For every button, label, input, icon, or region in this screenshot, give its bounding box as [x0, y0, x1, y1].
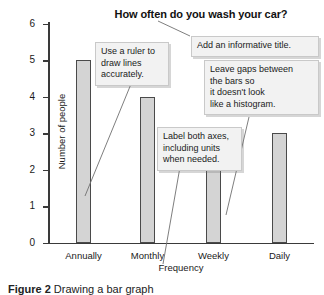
y-tick-0: 0: [43, 243, 48, 244]
y-tick-label-1: 1: [29, 201, 35, 211]
y-tick-label-2: 2: [29, 165, 35, 175]
y-tick-5: 5: [43, 60, 48, 61]
y-tick-3: 3: [43, 133, 48, 134]
y-tick-label-6: 6: [29, 19, 35, 29]
y-tick-2: 2: [43, 170, 48, 171]
category-label-annually: Annually: [65, 250, 101, 261]
figure-caption-text: Drawing a bar graph: [54, 283, 154, 295]
bar-monthly: [140, 97, 155, 243]
y-tick-6: 6: [43, 24, 48, 25]
y-tick-1: 1: [43, 206, 48, 207]
annotation-ruler-note: Use a ruler to draw lines accurately.: [95, 42, 169, 86]
bar-daily: [272, 133, 287, 243]
annotation-gaps-note: Leave gaps between the bars so it doesn'…: [204, 60, 319, 115]
bar-annually: [76, 60, 91, 243]
y-tick-label-0: 0: [29, 238, 35, 248]
category-label-monthly: Monthly: [131, 250, 164, 261]
figure-caption-number: Figure 2: [8, 283, 51, 295]
annotation-axes-note: Label both axes, including units when ne…: [157, 127, 242, 171]
category-label-daily: Daily: [269, 250, 290, 261]
annotation-title-note: Add an informative title.: [191, 36, 319, 57]
y-tick-4: 4: [43, 97, 48, 98]
y-axis-line: [48, 22, 50, 244]
category-label-weekly: Weekly: [198, 250, 229, 261]
x-axis-line: [48, 243, 314, 245]
figure-caption: Figure 2 Drawing a bar graph: [8, 283, 154, 295]
y-tick-label-3: 3: [29, 128, 35, 138]
figure-bar-graph-annotated: How often do you wash your car? 0 1 2 3 …: [0, 0, 324, 295]
x-axis-title: Frequency: [48, 262, 314, 273]
y-tick-label-5: 5: [29, 55, 35, 65]
y-tick-label-4: 4: [29, 92, 35, 102]
y-axis-title: Number of people: [56, 77, 67, 187]
bar-weekly: [206, 170, 221, 243]
chart-title: How often do you wash your car?: [84, 8, 318, 20]
